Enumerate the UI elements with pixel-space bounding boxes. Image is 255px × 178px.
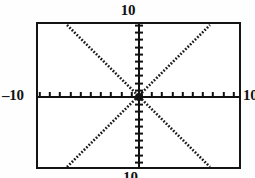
plot-frame xyxy=(36,22,241,169)
y-min-range-label: -10 xyxy=(1,170,255,178)
x-max-range-label: 10 xyxy=(243,88,255,103)
plot-area xyxy=(38,24,239,167)
origin-point xyxy=(135,93,143,101)
graphing-calculator-screenshot: 10 –10 10 -10 xyxy=(0,0,255,178)
x-min-range-label: –10 xyxy=(2,88,24,103)
y-max-range-label: 10 xyxy=(1,3,255,18)
